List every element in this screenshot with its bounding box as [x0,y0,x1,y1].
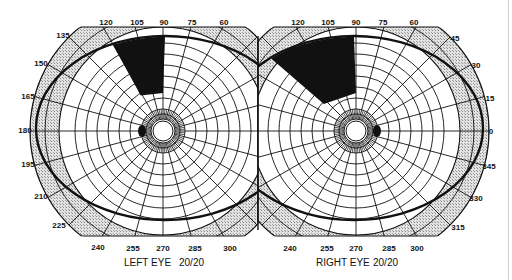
visual-field-chart: 1201059075601351501651801952102252402552… [0,0,512,280]
right-eye-caption: RIGHT EYE [316,257,370,268]
degree-label: 120 [99,18,113,27]
degree-label: 90 [352,18,361,27]
degree-label: 300 [410,244,424,253]
right-eye-acuity: 20/20 [373,257,398,268]
page-edge-rule [508,0,509,280]
degree-label: 255 [126,244,140,253]
degree-label: 105 [130,18,144,27]
degree-label: 180 [18,126,32,135]
degree-label: 105 [321,18,335,27]
degree-label: 165 [21,92,35,101]
fixation-point [346,121,366,141]
degree-label: 45 [451,34,460,43]
degree-label: 90 [160,18,169,27]
degree-label: 135 [56,31,70,40]
blind-spot [373,125,381,137]
left-eye-acuity: 20/20 [179,257,204,268]
degree-label: 195 [21,160,35,169]
degree-label: 315 [451,223,465,232]
left-eye-caption: LEFT EYE [124,257,171,268]
degree-label: 285 [382,244,396,253]
degree-label: 270 [349,244,363,253]
degree-label: 150 [34,59,48,68]
degree-label: 225 [52,221,66,230]
degree-label: 210 [34,192,48,201]
degree-label: 240 [91,243,105,252]
degree-label: 285 [188,244,202,253]
degree-label: 255 [320,244,334,253]
degree-label: 75 [188,18,197,27]
degree-label: 60 [220,18,229,27]
degree-label: 75 [379,18,388,27]
degree-label: 15 [486,94,495,103]
degree-label: 120 [291,18,305,27]
blind-spot [138,125,146,137]
degree-label: 0 [489,127,494,136]
fixation-point [153,121,173,141]
degree-label: 30 [472,61,481,70]
degree-label: 60 [410,18,419,27]
degree-label: 240 [283,244,297,253]
degree-label: 300 [223,244,237,253]
degree-label: 270 [156,244,170,253]
degree-label: 330 [469,194,483,203]
degree-label: 345 [482,162,496,171]
